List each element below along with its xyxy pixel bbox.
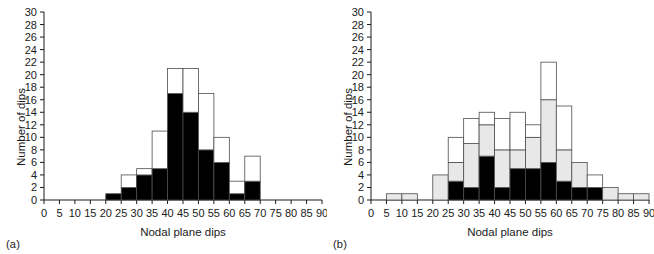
x-tick-label: 35 [473, 207, 485, 219]
histogram-bar [198, 93, 213, 149]
y-tick-label: 14 [25, 106, 37, 118]
x-tick-label: 5 [383, 207, 389, 219]
x-tick-label: 50 [519, 207, 531, 219]
histogram-bar [402, 194, 417, 200]
histogram-bar [587, 187, 602, 200]
x-tick-label: 40 [488, 207, 500, 219]
x-tick-label: 20 [427, 207, 439, 219]
histogram-bar [214, 162, 229, 200]
histogram-bar [168, 68, 183, 93]
y-tick-label: 6 [358, 156, 364, 168]
histogram-bar [464, 144, 479, 188]
x-tick-label: 25 [115, 207, 127, 219]
y-tick-label: 12 [352, 119, 364, 131]
y-tick-label: 0 [358, 194, 364, 206]
histogram-bar [214, 137, 229, 162]
histogram-bar [137, 169, 152, 175]
x-tick-label: 45 [504, 207, 516, 219]
figure-container: Number of dips 0246810121416182022242628… [0, 0, 654, 254]
x-tick-label: 90 [643, 207, 654, 219]
x-tick-label: 0 [368, 207, 374, 219]
histogram-bar [245, 181, 260, 200]
x-tick-label: 40 [161, 207, 173, 219]
y-tick-label: 28 [352, 19, 364, 31]
histogram-bar [152, 131, 167, 169]
y-tick-label: 22 [352, 56, 364, 68]
histogram-bar [479, 125, 494, 156]
y-tick-label: 2 [358, 181, 364, 193]
x-tick-label: 80 [612, 207, 624, 219]
histogram-bar [479, 112, 494, 125]
histogram-bar [479, 156, 494, 200]
histogram-bar [510, 150, 525, 169]
y-tick-label: 24 [25, 44, 37, 56]
x-tick-label: 20 [100, 207, 112, 219]
histogram-bar [121, 175, 136, 188]
y-tick-label: 8 [358, 144, 364, 156]
histogram-bar [510, 169, 525, 200]
histogram-bar [541, 62, 556, 100]
x-tick-label: 65 [239, 207, 251, 219]
histogram-bar [572, 187, 587, 200]
histogram-bar [448, 162, 463, 181]
x-tick-label: 30 [458, 207, 470, 219]
x-tick-label: 55 [208, 207, 220, 219]
x-tick-label: 80 [285, 207, 297, 219]
x-tick-label: 65 [566, 207, 578, 219]
histogram-bar [137, 175, 152, 200]
histogram-bar [618, 194, 633, 200]
y-tick-label: 10 [352, 131, 364, 143]
histogram-bar [183, 68, 198, 112]
x-tick-label: 10 [69, 207, 81, 219]
x-tick-label: 75 [597, 207, 609, 219]
y-tick-label: 30 [352, 6, 364, 18]
histogram-bar [152, 169, 167, 200]
panel-b-tag: (b) [333, 238, 347, 250]
histogram-bar [245, 156, 260, 181]
x-tick-label: 35 [146, 207, 158, 219]
histogram-bar [464, 119, 479, 144]
histogram-bar [510, 112, 525, 150]
y-tick-label: 6 [31, 156, 37, 168]
histogram-bar [495, 150, 510, 188]
x-tick-label: 60 [223, 207, 235, 219]
x-tick-label: 85 [300, 207, 312, 219]
histogram-bar [556, 150, 571, 181]
x-tick-label: 60 [550, 207, 562, 219]
x-tick-label: 0 [41, 207, 47, 219]
y-tick-label: 10 [25, 131, 37, 143]
histogram-bar [433, 175, 448, 200]
y-tick-label: 4 [358, 169, 364, 181]
histogram-bar [448, 137, 463, 162]
x-tick-label: 30 [131, 207, 143, 219]
histogram-bar [525, 169, 540, 200]
y-tick-label: 30 [25, 6, 37, 18]
histogram-bar [525, 137, 540, 168]
x-tick-label: 50 [192, 207, 204, 219]
x-tick-label: 25 [442, 207, 454, 219]
panel-a: Number of dips 0246810121416182022242628… [0, 0, 327, 254]
x-tick-label: 85 [627, 207, 639, 219]
panel-b: Number of dips 0246810121416182022242628… [327, 0, 654, 254]
y-tick-label: 16 [25, 94, 37, 106]
histogram-bar [183, 112, 198, 200]
x-tick-label: 10 [396, 207, 408, 219]
x-tick-label: 15 [84, 207, 96, 219]
panel-b-x-axis-label: Nodal plane dips [371, 226, 649, 238]
histogram-bar [386, 194, 401, 200]
y-tick-label: 2 [31, 181, 37, 193]
y-tick-label: 12 [25, 119, 37, 131]
histogram-bar [556, 106, 571, 150]
panel-a-tag: (a) [6, 238, 20, 250]
panel-b-plot: 0246810121416182022242628300510152025303… [327, 0, 654, 254]
y-tick-label: 22 [25, 56, 37, 68]
histogram-bar [121, 187, 136, 200]
histogram-bar [106, 194, 121, 200]
histogram-bar [168, 93, 183, 200]
y-tick-label: 26 [352, 31, 364, 43]
y-tick-label: 14 [352, 106, 364, 118]
panel-a-plot: 0246810121416182022242628300510152025303… [0, 0, 327, 254]
y-tick-label: 16 [352, 94, 364, 106]
histogram-bar [464, 187, 479, 200]
histogram-bar [587, 175, 602, 188]
